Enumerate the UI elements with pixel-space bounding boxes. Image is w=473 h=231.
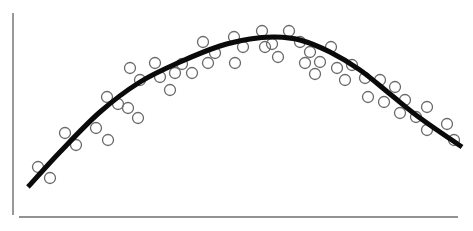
data-point xyxy=(300,58,311,69)
data-point xyxy=(165,85,176,96)
data-point xyxy=(133,113,144,124)
data-point xyxy=(123,103,134,114)
data-point xyxy=(273,52,284,63)
data-point xyxy=(45,173,56,184)
data-point xyxy=(395,108,406,119)
data-point xyxy=(315,57,326,68)
data-point xyxy=(203,58,214,69)
data-point xyxy=(150,58,161,69)
scatter-points xyxy=(33,26,460,184)
fitted-curve xyxy=(28,37,462,187)
data-point xyxy=(198,37,209,48)
data-point xyxy=(284,26,295,37)
data-point xyxy=(60,128,71,139)
data-point xyxy=(363,92,374,103)
data-point xyxy=(187,68,198,79)
data-point xyxy=(379,97,390,108)
data-point xyxy=(340,75,351,86)
data-point xyxy=(442,119,453,130)
data-point xyxy=(422,102,433,113)
data-point xyxy=(305,47,316,58)
data-point xyxy=(267,39,278,50)
scatter-chart xyxy=(0,0,473,231)
data-point xyxy=(125,63,136,74)
data-point xyxy=(103,135,114,146)
data-point xyxy=(310,69,321,80)
data-point xyxy=(91,123,102,134)
data-point xyxy=(390,82,401,93)
data-point xyxy=(230,58,241,69)
data-point xyxy=(260,42,271,53)
data-point xyxy=(332,63,343,74)
